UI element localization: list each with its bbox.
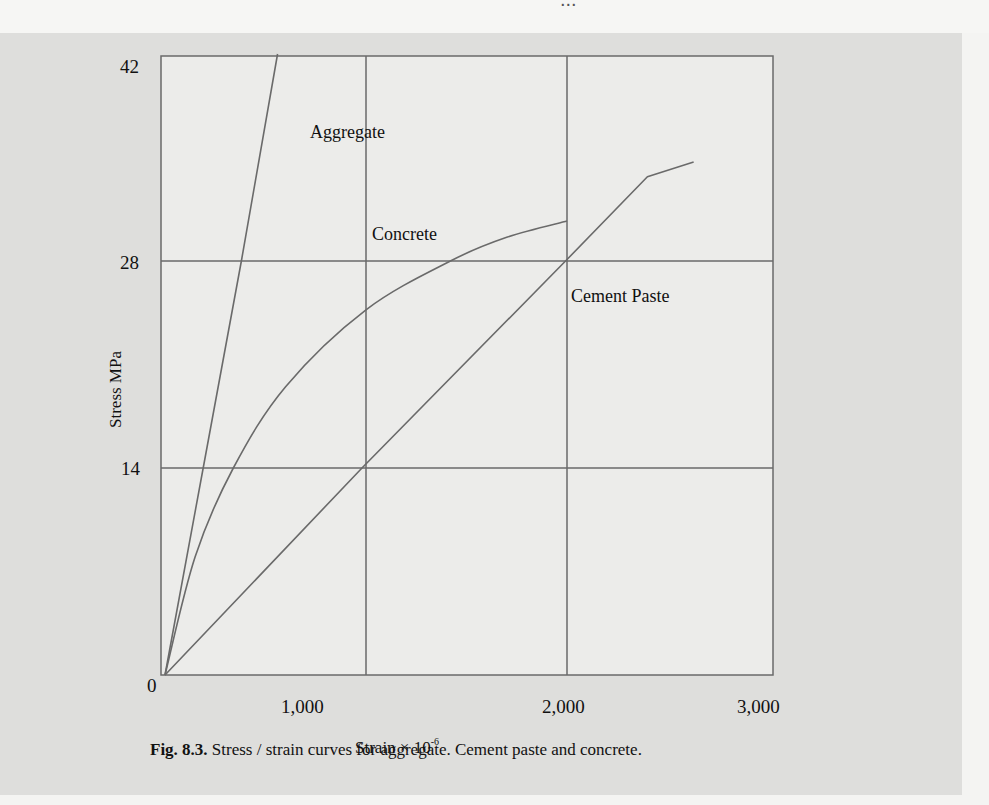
figure-caption-text: Stress / strain curves for aggregate. Ce… bbox=[212, 740, 642, 759]
label-aggregate: Aggregate bbox=[310, 122, 385, 142]
y-tick-0: 0 bbox=[147, 675, 157, 696]
x-tick-3000: 3,000 bbox=[737, 696, 780, 717]
figure-number: Fig. 8.3. bbox=[150, 740, 208, 759]
y-axis-title: Stress MPa bbox=[106, 351, 125, 428]
x-tick-2000: 2,000 bbox=[542, 696, 585, 717]
stress-strain-chart: 42 28 14 0 1,000 2,000 3,000 Stress MPa … bbox=[0, 0, 989, 805]
label-concrete: Concrete bbox=[372, 224, 437, 244]
figure-caption: Fig. 8.3. Stress / strain curves for agg… bbox=[150, 740, 642, 760]
label-cement-paste: Cement Paste bbox=[571, 286, 669, 306]
y-tick-14: 14 bbox=[121, 458, 141, 479]
y-tick-28: 28 bbox=[120, 252, 139, 273]
y-tick-42: 42 bbox=[120, 56, 139, 77]
page: ... 42 28 14 0 1,000 2,000 3,000 Stress … bbox=[0, 0, 989, 805]
x-tick-1000: 1,000 bbox=[281, 696, 324, 717]
